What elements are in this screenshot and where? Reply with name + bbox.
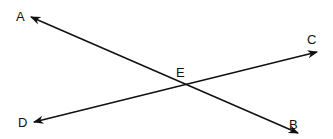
point-label-b: B [289, 117, 298, 132]
intersecting-lines-diagram: A B C D E [0, 0, 333, 139]
diagram-canvas: A B C D E [0, 0, 333, 139]
line-cd [34, 52, 317, 122]
point-label-a: A [16, 9, 25, 24]
point-label-e: E [176, 65, 185, 80]
point-label-d: D [18, 115, 27, 130]
line-ab [31, 17, 298, 133]
point-label-c: C [307, 32, 316, 47]
